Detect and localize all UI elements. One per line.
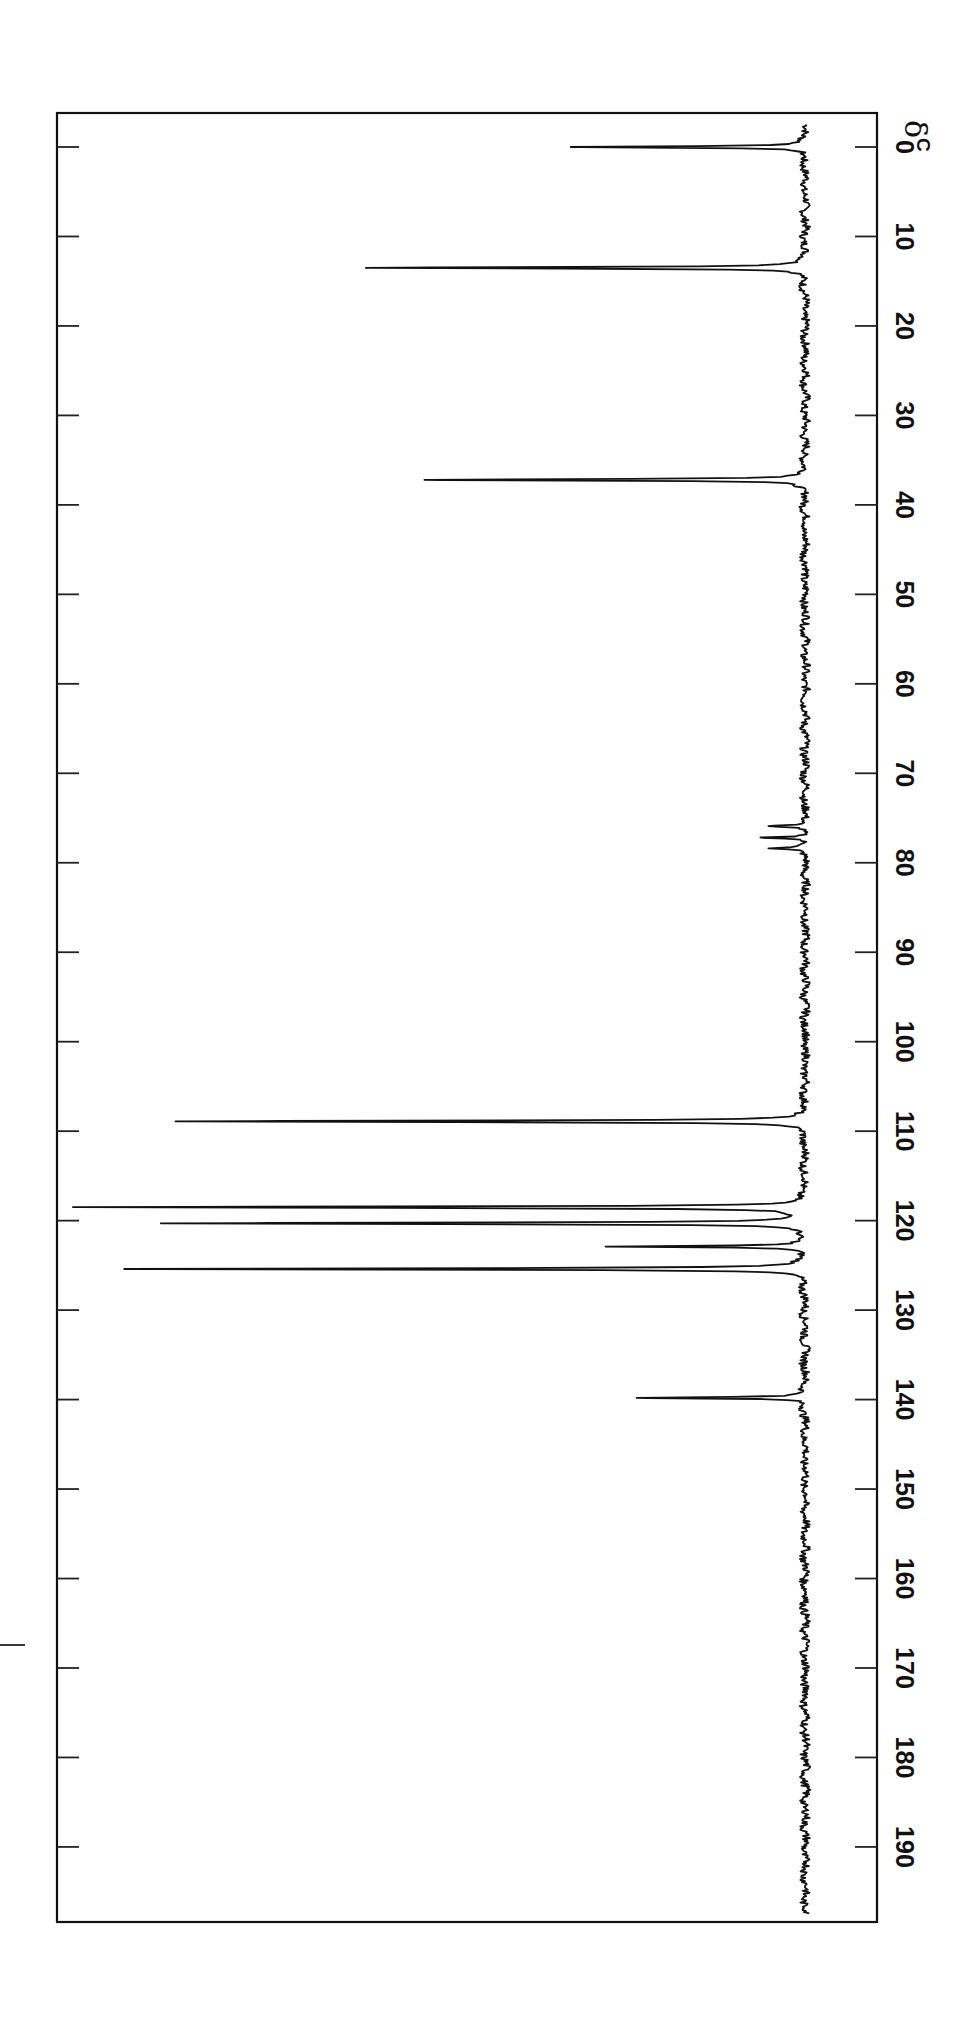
axis-title-subscript: C: [913, 138, 934, 152]
tick-label-140: 140: [891, 1379, 919, 1421]
tick-label-110: 110: [891, 1111, 919, 1151]
axis-title-delta: δ: [898, 120, 933, 138]
tick-label-130: 130: [891, 1289, 919, 1331]
tick-label-40: 40: [891, 491, 919, 519]
tick-label-190: 190: [891, 1826, 919, 1868]
tick-label-180: 180: [891, 1737, 919, 1779]
tick-label-10: 10: [891, 223, 919, 251]
nmr-spectrum-chart: 0102030405060708090100110120130140150160…: [0, 0, 970, 2020]
tick-label-170: 170: [891, 1647, 919, 1689]
tick-label-120: 120: [891, 1200, 919, 1242]
tick-label-70: 70: [891, 759, 919, 787]
tick-label-60: 60: [891, 670, 919, 698]
axis-ticks: [57, 147, 877, 1847]
tick-label-100: 100: [891, 1021, 919, 1063]
tick-label-20: 20: [891, 312, 919, 340]
tick-label-50: 50: [891, 580, 919, 608]
tick-label-30: 30: [891, 402, 919, 430]
tick-label-160: 160: [891, 1558, 919, 1600]
tick-label-80: 80: [891, 849, 919, 877]
spectrum-trace: [73, 125, 810, 1914]
tick-label-90: 90: [891, 938, 919, 966]
axis-tick-labels: 0102030405060708090100110120130140150160…: [891, 140, 919, 1868]
tick-label-150: 150: [891, 1468, 919, 1510]
plot-frame: [57, 113, 877, 1922]
